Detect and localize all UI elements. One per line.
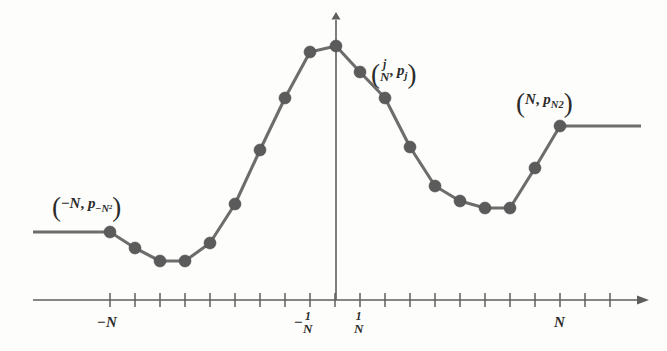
axes-group	[33, 12, 649, 305]
data-point-marker	[229, 198, 241, 210]
figure-container: −N −1N 1N N (−N, p−N2) (jN, pj) (N, pN2)	[0, 0, 667, 351]
data-markers-group	[104, 40, 566, 267]
tick-label-minus-one-over-n: −1N	[294, 312, 313, 335]
data-point-marker	[254, 144, 266, 156]
data-point-marker	[279, 92, 291, 104]
x-axis-arrowhead	[637, 296, 649, 305]
tick-label-n: N	[554, 315, 565, 330]
y-axis-arrowhead	[332, 12, 341, 20]
data-point-marker	[504, 202, 516, 214]
data-point-marker	[379, 92, 391, 104]
data-point-marker	[304, 46, 316, 58]
data-point-marker	[404, 141, 416, 153]
annotation-left-endpoint: (−N, p−N2)	[52, 196, 121, 214]
data-polyline	[110, 46, 560, 261]
data-point-marker	[330, 40, 342, 52]
tick-label-one-over-n: 1N	[354, 312, 364, 335]
data-point-marker	[554, 120, 566, 132]
axis-ticks-group	[110, 293, 610, 307]
data-point-marker	[429, 180, 441, 192]
data-point-marker	[129, 242, 141, 254]
plot-canvas	[0, 0, 667, 351]
annotation-right-endpoint: (N, pN2)	[516, 92, 573, 110]
data-point-marker	[154, 255, 166, 267]
data-point-marker	[204, 237, 216, 249]
annotation-generic-point: (jN, pj)	[371, 60, 416, 83]
data-point-marker	[529, 162, 541, 174]
data-point-marker	[479, 202, 491, 214]
data-point-marker	[354, 66, 366, 78]
tick-label-minus-n: −N	[97, 315, 117, 330]
data-point-marker	[454, 195, 466, 207]
data-point-marker	[179, 255, 191, 267]
data-point-marker	[104, 226, 116, 238]
